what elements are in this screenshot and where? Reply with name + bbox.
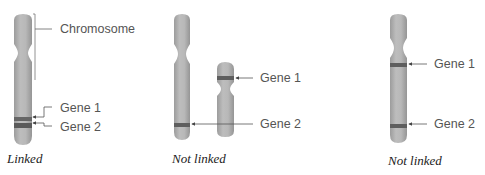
gene-linkage-diagram: Chromosome Gene 1 Gene 2 Linked Gene 1 G… bbox=[0, 0, 485, 175]
chromosome-2a bbox=[174, 14, 190, 140]
gene1-leader bbox=[33, 107, 52, 117]
panel-linked: Chromosome Gene 1 Gene 2 Linked bbox=[6, 14, 135, 166]
caption-not-linked-2: Not linked bbox=[387, 153, 442, 168]
gene2-label: Gene 2 bbox=[260, 117, 301, 131]
panel-not-linked-1: Gene 1 Gene 2 Not linked bbox=[171, 14, 301, 166]
gene2-label: Gene 2 bbox=[60, 120, 101, 134]
panel-not-linked-2: Gene 1 Gene 2 Not linked bbox=[387, 14, 475, 168]
gene2-leader bbox=[33, 123, 52, 126]
chromosome-bracket bbox=[33, 14, 35, 80]
gene1-band bbox=[14, 117, 32, 121]
caption-not-linked-1: Not linked bbox=[171, 151, 226, 166]
gene2-band bbox=[390, 124, 407, 128]
chromosome-label: Chromosome bbox=[60, 22, 135, 36]
chromosome-3 bbox=[390, 14, 407, 143]
gene1-band bbox=[390, 63, 407, 67]
gene2-band bbox=[174, 123, 190, 127]
gene1-label: Gene 1 bbox=[260, 71, 301, 85]
gene2-band bbox=[14, 123, 32, 128]
chromosome-2b bbox=[217, 62, 234, 137]
gene1-band bbox=[217, 76, 234, 80]
gene1-label: Gene 1 bbox=[60, 101, 101, 115]
caption-linked: Linked bbox=[6, 151, 43, 166]
gene2-label: Gene 2 bbox=[434, 117, 475, 131]
gene1-label: Gene 1 bbox=[434, 57, 475, 71]
